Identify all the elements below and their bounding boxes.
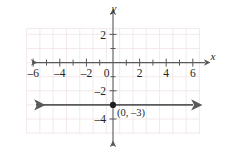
- y-tick-label-neg4: –4: [94, 113, 107, 125]
- coordinate-plane-figure: –6 –4 –2 0 2 4 6 2 –2 –4 x y (0, –3): [0, 0, 236, 154]
- x-tick-label-neg4: –4: [53, 67, 66, 79]
- x-tick-label-neg2: –2: [80, 67, 93, 79]
- graph-screenshot: –6 –4 –2 0 2 4 6 2 –2 –4 x y (0, –3): [0, 0, 236, 154]
- x-tick-label-neg6: –6: [26, 67, 39, 79]
- y-tick-label-2: 2: [100, 29, 106, 41]
- x-tick-label-0: 0: [104, 67, 110, 79]
- x-tick-label-4: 4: [163, 67, 169, 79]
- y-axis-label: y: [111, 2, 117, 14]
- point-marker-y-intercept: [110, 102, 116, 108]
- x-tick-label-2: 2: [137, 67, 143, 79]
- x-tick-label-6: 6: [190, 67, 196, 79]
- point-label-y-intercept: (0, –3): [117, 107, 145, 119]
- x-axis-label: x: [210, 50, 216, 62]
- y-tick-label-neg2: –2: [94, 85, 107, 97]
